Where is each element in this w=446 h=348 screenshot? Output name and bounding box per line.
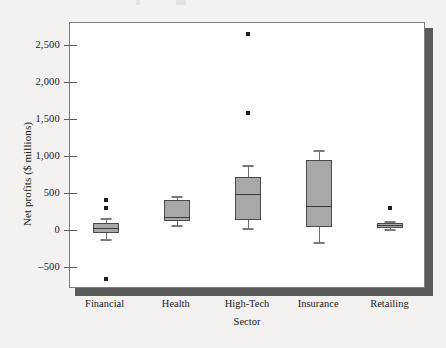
whisker-cap-lower [314,242,325,244]
median-line [306,206,332,207]
whisker-lower [248,220,249,228]
median-line [164,217,190,218]
cropped-caption-sliver [130,0,200,5]
x-axis-tick-label: Financial [85,298,124,309]
box-iqr [164,200,190,221]
outlier-point [388,206,392,210]
outlier-point [246,111,250,115]
median-line [93,228,119,229]
outlier-point [246,32,250,36]
y-axis-tick [64,82,77,83]
boxplot-figure: Net profits ($ millions) Sector –5000500… [0,0,446,348]
y-axis-tick-label: 1,500 [0,113,60,124]
plot-frame [69,22,425,288]
outlier-point [104,277,108,281]
median-line [235,194,261,195]
y-axis-tick-label: 1,000 [0,150,60,161]
whisker-lower [106,233,107,240]
y-axis-tick-label: 0 [0,223,60,234]
y-axis-title: Net profits ($ millions) [21,122,33,226]
y-axis-tick-label: 2,000 [0,76,60,87]
y-axis-tick [64,230,77,231]
y-axis-tick-label: 500 [0,186,60,197]
whisker-cap-lower [243,228,254,230]
median-line [377,225,403,226]
outlier-point [104,198,108,202]
whisker-cap-upper [314,150,325,152]
plot-canvas [70,23,424,287]
x-axis-tick-label: Health [162,298,190,309]
whisker-cap-upper [171,196,182,198]
x-axis-title: Sector [234,316,261,327]
box-iqr [235,177,261,221]
y-axis-tick [64,193,77,194]
whisker-cap-upper [243,165,254,167]
whisker-cap-lower [100,239,111,241]
x-axis-tick-label: High-Tech [225,298,270,309]
outlier-point [104,206,108,210]
y-axis-tick [64,267,77,268]
y-axis-tick-label: 2,500 [0,39,60,50]
y-axis-tick [64,156,77,157]
y-axis-tick [64,45,77,46]
y-axis-tick-label: –500 [0,260,60,271]
whisker-lower [319,227,320,242]
x-axis-tick-label: Retailing [370,298,409,309]
whisker-cap-lower [385,229,396,231]
x-axis-tick-label: Insurance [298,298,339,309]
whisker-cap-lower [171,225,182,227]
y-axis-tick [64,119,77,120]
whisker-cap-upper [100,218,111,220]
box-iqr [306,160,332,227]
